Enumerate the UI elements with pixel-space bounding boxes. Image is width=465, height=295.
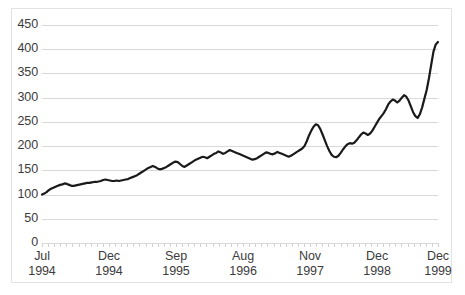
x-tick-mark bbox=[42, 243, 43, 247]
x-tick-mark bbox=[225, 243, 226, 247]
x-tick-mark bbox=[401, 243, 402, 247]
x-tick-label: Nov1997 bbox=[296, 249, 323, 279]
x-tick-mark bbox=[341, 243, 342, 247]
x-tick-mark bbox=[200, 243, 201, 247]
y-tick-label: 150 bbox=[4, 163, 38, 176]
x-tick-mark bbox=[414, 243, 415, 247]
x-tick-mark bbox=[408, 243, 409, 247]
x-tick-mark bbox=[322, 243, 323, 247]
x-tick-mark bbox=[304, 243, 305, 247]
x-tick-year: 1998 bbox=[363, 264, 390, 279]
x-tick-mark bbox=[170, 243, 171, 247]
x-tick-label: Dec1998 bbox=[363, 249, 390, 279]
x-tick-mark bbox=[115, 243, 116, 247]
x-tick-label: Sep1995 bbox=[162, 249, 189, 279]
x-tick-mark bbox=[164, 243, 165, 247]
x-tick-mark bbox=[298, 243, 299, 247]
series-polyline bbox=[42, 42, 438, 195]
x-tick-year: 1996 bbox=[229, 264, 256, 279]
x-tick-mark bbox=[280, 243, 281, 247]
x-tick-mark bbox=[420, 243, 421, 247]
x-tick-mark bbox=[334, 243, 335, 247]
x-tick-mark bbox=[121, 243, 122, 247]
x-tick-mark bbox=[60, 243, 61, 247]
y-tick-label: 450 bbox=[4, 18, 38, 31]
x-tick-mark bbox=[219, 243, 220, 247]
x-tick-month: Sep bbox=[162, 249, 189, 264]
x-tick-label: Dec1999 bbox=[424, 249, 451, 279]
x-tick-mark bbox=[365, 243, 366, 247]
x-tick-mark bbox=[237, 243, 238, 247]
x-axis-labels: Jul1994Dec1994Sep1995Aug1996Nov1997Dec19… bbox=[42, 249, 438, 283]
x-tick-mark bbox=[377, 243, 378, 247]
x-tick-mark bbox=[103, 243, 104, 247]
x-tick-month: Dec bbox=[424, 249, 451, 264]
x-tick-year: 1994 bbox=[95, 264, 122, 279]
x-tick-mark bbox=[249, 243, 250, 247]
x-tick-mark bbox=[194, 243, 195, 247]
y-tick-label: 100 bbox=[4, 188, 38, 201]
x-tick-mark bbox=[182, 243, 183, 247]
x-tick-mark bbox=[353, 243, 354, 247]
x-tick-month: Nov bbox=[296, 249, 323, 264]
x-tick-mark bbox=[158, 243, 159, 247]
x-tick-mark bbox=[133, 243, 134, 247]
x-tick-mark bbox=[432, 243, 433, 247]
x-axis-ticks bbox=[42, 243, 438, 248]
x-tick-mark bbox=[146, 243, 147, 247]
x-tick-mark bbox=[316, 243, 317, 247]
x-tick-mark bbox=[109, 243, 110, 247]
x-tick-mark bbox=[310, 243, 311, 247]
x-tick-mark bbox=[48, 243, 49, 247]
x-tick-mark bbox=[91, 243, 92, 247]
x-tick-mark bbox=[176, 243, 177, 247]
x-tick-mark bbox=[139, 243, 140, 247]
x-tick-mark bbox=[359, 243, 360, 247]
x-tick-mark bbox=[79, 243, 80, 247]
x-tick-label: Aug1996 bbox=[229, 249, 256, 279]
x-tick-mark bbox=[97, 243, 98, 247]
x-tick-mark bbox=[72, 243, 73, 247]
x-tick-mark bbox=[66, 243, 67, 247]
y-tick-label: 350 bbox=[4, 66, 38, 79]
x-tick-mark bbox=[243, 243, 244, 247]
x-tick-month: Dec bbox=[363, 249, 390, 264]
x-tick-year: 1994 bbox=[28, 264, 55, 279]
x-tick-mark bbox=[213, 243, 214, 247]
x-tick-mark bbox=[261, 243, 262, 247]
x-tick-mark bbox=[286, 243, 287, 247]
y-tick-label: 200 bbox=[4, 139, 38, 152]
x-tick-mark bbox=[54, 243, 55, 247]
x-tick-mark bbox=[267, 243, 268, 247]
y-tick-label: 400 bbox=[4, 42, 38, 55]
x-tick-year: 1995 bbox=[162, 264, 189, 279]
x-tick-mark bbox=[152, 243, 153, 247]
x-tick-mark bbox=[426, 243, 427, 247]
y-tick-label: 300 bbox=[4, 91, 38, 104]
x-tick-mark bbox=[347, 243, 348, 247]
x-tick-label: Dec1994 bbox=[95, 249, 122, 279]
y-tick-label: 0 bbox=[4, 236, 38, 249]
x-tick-mark bbox=[383, 243, 384, 247]
x-tick-mark bbox=[255, 243, 256, 247]
y-tick-label: 50 bbox=[4, 212, 38, 225]
plot-area bbox=[42, 25, 438, 243]
x-tick-year: 1997 bbox=[296, 264, 323, 279]
x-tick-mark bbox=[188, 243, 189, 247]
x-tick-mark bbox=[274, 243, 275, 247]
x-tick-year: 1999 bbox=[424, 264, 451, 279]
y-tick-label: 250 bbox=[4, 115, 38, 128]
x-tick-mark bbox=[389, 243, 390, 247]
x-tick-mark bbox=[371, 243, 372, 247]
x-tick-mark bbox=[438, 243, 439, 247]
line-series bbox=[42, 25, 438, 243]
y-axis-labels: 050100150200250300350400450 bbox=[2, 25, 38, 243]
x-tick-month: Aug bbox=[229, 249, 256, 264]
x-tick-mark bbox=[231, 243, 232, 247]
x-tick-mark bbox=[328, 243, 329, 247]
x-tick-label: Jul1994 bbox=[28, 249, 55, 279]
chart-container: 050100150200250300350400450 Jul1994Dec19… bbox=[0, 0, 465, 295]
x-tick-mark bbox=[206, 243, 207, 247]
x-tick-mark bbox=[127, 243, 128, 247]
x-tick-mark bbox=[85, 243, 86, 247]
